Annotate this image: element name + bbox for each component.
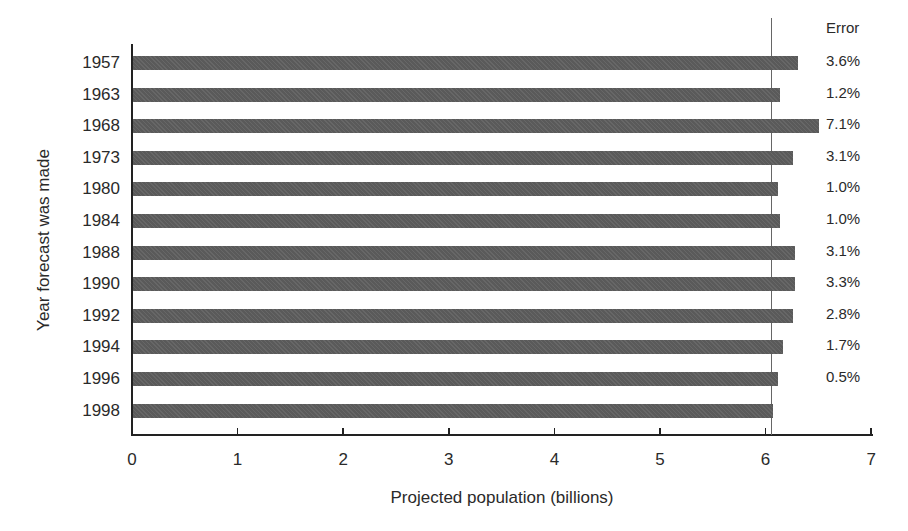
bar — [133, 340, 783, 354]
bar — [133, 404, 773, 418]
x-tick-label: 6 — [761, 450, 770, 470]
category-label: 1992 — [82, 306, 120, 326]
category-label: 1957 — [82, 53, 120, 73]
bar — [133, 309, 793, 323]
error-column-title: Error — [826, 19, 859, 36]
error-label: 7.1% — [826, 115, 860, 132]
bar — [133, 56, 798, 70]
bar — [133, 372, 778, 386]
bar — [133, 119, 819, 133]
error-label: 0.5% — [826, 368, 860, 385]
category-label: 1988 — [82, 243, 120, 263]
x-tick-mark — [342, 428, 344, 435]
category-label: 1968 — [82, 116, 120, 136]
error-label: 1.0% — [826, 210, 860, 227]
category-label: 1998 — [82, 401, 120, 421]
x-tick-label: 0 — [127, 450, 136, 470]
y-axis-title: Year forecast was made — [34, 149, 54, 331]
error-label: 2.8% — [826, 304, 860, 321]
x-axis-title: Projected population (billions) — [390, 488, 613, 508]
category-label: 1994 — [82, 337, 120, 357]
bar — [133, 277, 795, 291]
bar — [133, 214, 780, 228]
error-label: 1.2% — [826, 83, 860, 100]
bar — [133, 246, 795, 260]
x-tick-mark — [448, 428, 450, 435]
error-label: 3.1% — [826, 241, 860, 258]
category-label: 1980 — [82, 179, 120, 199]
x-tick-mark — [870, 428, 872, 435]
x-tick-label: 3 — [444, 450, 453, 470]
error-label: 3.3% — [826, 273, 860, 290]
x-tick-label: 5 — [655, 450, 664, 470]
x-axis-line — [131, 434, 873, 436]
category-label: 1990 — [82, 274, 120, 294]
error-label: 1.0% — [826, 178, 860, 195]
x-tick-label: 2 — [338, 450, 347, 470]
x-tick-label: 1 — [233, 450, 242, 470]
bar — [133, 151, 793, 165]
error-label: 3.1% — [826, 146, 860, 163]
x-tick-mark — [554, 428, 556, 435]
bar — [133, 182, 778, 196]
bar — [133, 88, 780, 102]
category-label: 1973 — [82, 148, 120, 168]
x-tick-label: 7 — [866, 450, 875, 470]
error-label: 1.7% — [826, 336, 860, 353]
x-tick-label: 4 — [550, 450, 559, 470]
x-tick-mark — [237, 428, 239, 435]
category-label: 1963 — [82, 85, 120, 105]
x-tick-mark — [765, 428, 767, 435]
category-label: 1984 — [82, 211, 120, 231]
category-label: 1996 — [82, 369, 120, 389]
error-label: 3.6% — [826, 52, 860, 69]
x-tick-mark — [659, 428, 661, 435]
